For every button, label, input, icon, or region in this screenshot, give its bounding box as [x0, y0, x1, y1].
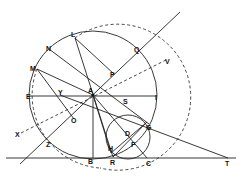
label-Y: Y [58, 89, 63, 96]
small-circle [106, 115, 150, 159]
label-O: O [71, 117, 77, 124]
line-GT [60, 95, 228, 158]
label-B: B [88, 158, 93, 165]
label-R: R [110, 159, 115, 166]
label-P: P [110, 71, 115, 78]
label-I: I [155, 94, 157, 101]
label-H: H [108, 145, 113, 152]
label-G: G [146, 124, 152, 131]
line-ZQ [20, 12, 180, 164]
label-N: N [46, 45, 51, 52]
label-Q: Q [134, 46, 140, 54]
label-M: M [30, 65, 36, 72]
label-C: C [146, 160, 151, 167]
label-S: S [123, 98, 128, 105]
label-X: X [15, 131, 20, 138]
line-MA [37, 69, 93, 95]
label-L: L [71, 31, 76, 38]
label-F: F [131, 141, 136, 148]
label-V: V [165, 58, 170, 65]
label-E: E [26, 93, 31, 100]
label-A: A [88, 87, 93, 94]
label-Z: Z [46, 141, 51, 148]
line-MO [37, 69, 74, 119]
geometry-diagram: A B C D E F G H I L M N O P Q R S T V X … [0, 0, 248, 180]
label-D: D [125, 130, 130, 137]
label-T: T [225, 160, 230, 167]
line-AC [93, 95, 147, 158]
